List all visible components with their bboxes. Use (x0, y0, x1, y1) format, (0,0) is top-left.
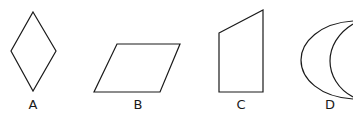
shape-a-label: A (29, 98, 38, 111)
shape-d-crescent-inner (330, 24, 353, 97)
shapes-diagram (0, 0, 353, 117)
shape-b-parallelogram (94, 44, 180, 92)
shape-d-crescent-outer (301, 21, 353, 99)
shape-a-rhombus (11, 12, 56, 91)
shape-c-trapezoid (219, 10, 263, 92)
shape-c-label: C (236, 98, 245, 111)
shape-d-label: D (325, 98, 335, 111)
shape-b-label: B (134, 98, 143, 111)
